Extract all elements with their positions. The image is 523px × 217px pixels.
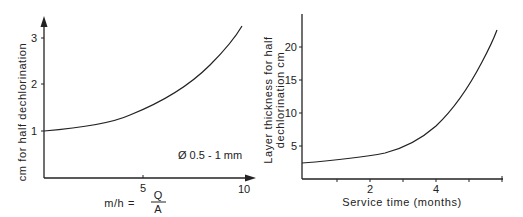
right-ytick-label: 5 bbox=[291, 140, 297, 152]
left-y-axis-label: cm for half dechlorination bbox=[16, 43, 28, 182]
left-x-axis-arrow-icon bbox=[245, 175, 256, 182]
grain-size-annotation: Ø 0.5 - 1 mm bbox=[178, 149, 242, 161]
left-x-axis-label-prefix: m/h = bbox=[104, 197, 135, 209]
charts-canvas: 1 2 3 5 10 cm for half dechlorination m/… bbox=[0, 0, 523, 217]
left-ytick-label: 3 bbox=[31, 32, 37, 44]
left-chart: 1 2 3 5 10 cm for half dechlorination m/… bbox=[16, 16, 256, 215]
right-xtick-label: 4 bbox=[433, 183, 439, 195]
right-ytick-label: 20 bbox=[285, 41, 297, 53]
left-curve bbox=[44, 26, 242, 131]
right-x-axis-label: Service time (months) bbox=[342, 196, 462, 208]
left-xtick-label: 5 bbox=[140, 182, 146, 194]
right-chart: 5 10 15 20 2 4 Service time (months) Lay… bbox=[262, 14, 503, 208]
right-ytick-label: 15 bbox=[285, 74, 297, 86]
right-y-axis-label-line1: Layer thickness for half bbox=[262, 36, 274, 164]
right-y-axis-label-line2: dechlorination cm bbox=[274, 52, 286, 148]
right-ytick-label: 10 bbox=[285, 107, 297, 119]
right-curve bbox=[302, 30, 497, 163]
left-ytick-label: 1 bbox=[31, 125, 37, 137]
left-x-axis-label-denominator: A bbox=[154, 203, 162, 215]
left-xtick-label: 10 bbox=[238, 183, 250, 195]
left-ytick-label: 2 bbox=[31, 78, 37, 90]
right-xtick-label: 2 bbox=[367, 183, 373, 195]
left-y-axis-arrow-icon bbox=[41, 16, 48, 27]
left-x-axis-label-numerator: Q bbox=[154, 189, 163, 201]
